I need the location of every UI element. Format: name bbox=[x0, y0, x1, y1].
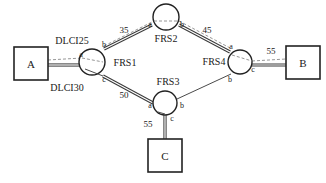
link-label-frs3-c: 55 bbox=[144, 119, 154, 129]
port-label-frs4-c: c bbox=[251, 65, 255, 74]
port-label-frs3-b: b bbox=[180, 101, 184, 110]
port-label-frs2-b: b bbox=[180, 20, 184, 29]
link-label-frs1-frs3: 50 bbox=[120, 90, 130, 100]
device-c-label: C bbox=[161, 150, 168, 162]
link-a-frs1 bbox=[48, 58, 82, 65]
switch-frs3-label: FRS3 bbox=[157, 76, 180, 87]
device-a-label: A bbox=[27, 58, 35, 70]
link-label-frs4-b: 55 bbox=[267, 46, 277, 56]
network-diagram-canvas: A B C FRS1 FRS2 bbox=[0, 0, 326, 183]
port-label-frs3-c: c bbox=[170, 114, 174, 123]
switch-node-frs4[interactable] bbox=[228, 50, 252, 74]
switch-frs4-label: FRS4 bbox=[203, 56, 226, 67]
link-frs4-b bbox=[252, 59, 286, 65]
port-label-frs4-a: a bbox=[229, 42, 233, 51]
network-diagram: A B C FRS1 FRS2 bbox=[0, 0, 326, 183]
port-label-frs3-a: a bbox=[148, 101, 152, 110]
dlci-label-25: DLCI25 bbox=[55, 35, 88, 46]
link-frs1-frs2 bbox=[104, 21, 154, 49]
switch-frs2-label: FRS2 bbox=[155, 33, 178, 44]
device-node-c[interactable]: C bbox=[148, 139, 182, 172]
switch-frs1-label: FRS1 bbox=[114, 57, 137, 68]
port-label-frs1-b: b bbox=[102, 40, 106, 49]
port-label-frs1-a: a bbox=[79, 50, 83, 59]
port-label-frs1-c: c bbox=[102, 75, 106, 84]
switch-node-frs1[interactable] bbox=[79, 49, 105, 76]
link-label-frs1-frs2: 35 bbox=[120, 25, 130, 35]
device-b-label: B bbox=[299, 57, 306, 69]
switch-node-frs2[interactable] bbox=[153, 4, 179, 30]
port-label-frs4-b: b bbox=[228, 75, 232, 84]
device-node-b[interactable]: B bbox=[286, 46, 320, 79]
switch-node-frs3[interactable] bbox=[153, 91, 177, 115]
device-node-a[interactable]: A bbox=[14, 47, 48, 80]
link-label-frs2-frs4: 45 bbox=[203, 25, 213, 35]
link-frs3-frs4 bbox=[177, 74, 231, 99]
dlci-label-30: DLCI30 bbox=[50, 82, 83, 93]
port-label-frs2-a: a bbox=[148, 20, 152, 29]
